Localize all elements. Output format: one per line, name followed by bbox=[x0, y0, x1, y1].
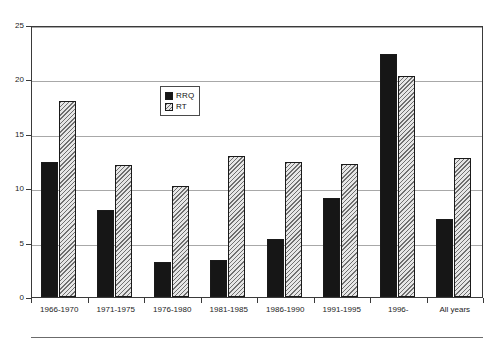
x-tick-label: 1976-1980 bbox=[144, 305, 201, 314]
y-tick-label: 5 bbox=[0, 240, 24, 248]
bar-rt-1966-1970 bbox=[59, 101, 76, 297]
x-tick-mark bbox=[427, 298, 428, 303]
x-tick-mark bbox=[314, 298, 315, 303]
legend-item-rt: RT bbox=[165, 101, 194, 112]
legend-swatch-rt-icon bbox=[165, 103, 173, 111]
x-tick-label: 1991-1995 bbox=[314, 305, 371, 314]
bar-rrq-1996- bbox=[380, 54, 397, 297]
bar-rt-1971-1975 bbox=[115, 165, 132, 297]
x-tick-label: 1986-1990 bbox=[257, 305, 314, 314]
bar-rrq-1986-1990 bbox=[267, 239, 284, 297]
bar-rrq-1971-1975 bbox=[97, 210, 114, 297]
legend-swatch-rrq-icon bbox=[165, 92, 173, 100]
bar-rrq-1991-1995 bbox=[323, 198, 340, 297]
x-tick-mark bbox=[201, 298, 202, 303]
x-tick-label: All years bbox=[427, 305, 484, 314]
bar-rrq-1981-1985 bbox=[210, 260, 227, 297]
chart-legend: RRQ RT bbox=[160, 86, 200, 116]
bar-rt-All years bbox=[454, 158, 471, 297]
x-tick-label: 1971-1975 bbox=[88, 305, 145, 314]
x-tick-mark bbox=[144, 298, 145, 303]
legend-label-rt: RT bbox=[176, 102, 187, 111]
bar-rt-1976-1980 bbox=[172, 186, 189, 297]
bar-rrq-1976-1980 bbox=[154, 262, 171, 297]
footer-rule bbox=[31, 337, 483, 338]
x-tick-mark bbox=[88, 298, 89, 303]
gridline bbox=[32, 27, 482, 28]
bar-chart-figure: 0510152025 1966-19701971-19751976-198019… bbox=[0, 0, 498, 345]
legend-item-rrq: RRQ bbox=[165, 90, 194, 101]
x-tick-label: 1981-1985 bbox=[201, 305, 258, 314]
y-tick-label: 15 bbox=[0, 131, 24, 139]
x-tick-mark bbox=[31, 298, 32, 303]
bar-rt-1986-1990 bbox=[285, 162, 302, 297]
bar-rrq-1966-1970 bbox=[41, 162, 58, 297]
legend-label-rrq: RRQ bbox=[176, 91, 194, 100]
x-tick-mark bbox=[257, 298, 258, 303]
bar-rt-1981-1985 bbox=[228, 156, 245, 297]
x-tick-mark bbox=[370, 298, 371, 303]
bar-rrq-All years bbox=[436, 219, 453, 297]
x-tick-label: 1996- bbox=[370, 305, 427, 314]
y-tick-label: 10 bbox=[0, 185, 24, 193]
x-tick-mark bbox=[483, 298, 484, 303]
bar-rt-1991-1995 bbox=[341, 164, 358, 297]
y-tick-label: 25 bbox=[0, 22, 24, 30]
y-tick-label: 0 bbox=[0, 294, 24, 302]
plot-area bbox=[31, 26, 483, 298]
x-tick-label: 1966-1970 bbox=[31, 305, 88, 314]
bar-rt-1996- bbox=[398, 76, 415, 297]
y-tick-label: 20 bbox=[0, 76, 24, 84]
